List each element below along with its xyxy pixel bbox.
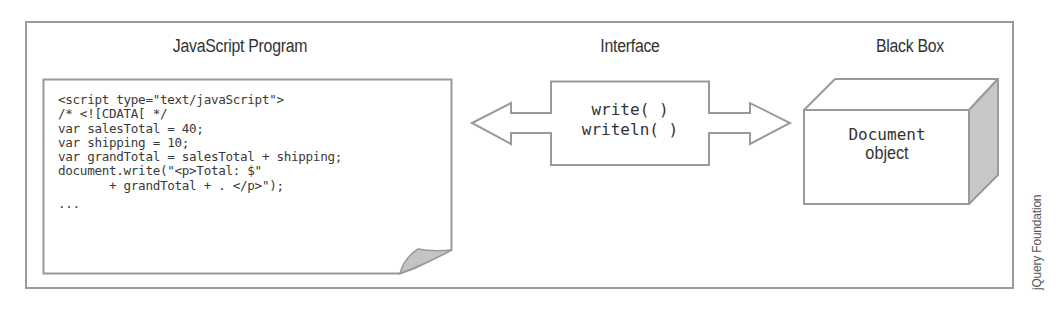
method-write: write( ) xyxy=(551,100,709,120)
interface-methods: write( ) writeln( ) xyxy=(551,100,709,140)
code-line: ... xyxy=(58,197,342,211)
object-name: Document xyxy=(804,126,970,144)
code-line: /* <![CDATA[ */ xyxy=(58,107,342,121)
code-line: var salesTotal = 40; xyxy=(58,122,342,136)
document-object-label: Document object xyxy=(804,126,970,162)
code-listing: <script type="text/javaScript">/* <![CDA… xyxy=(58,93,342,211)
code-line: + grandTotal + . </p>"); xyxy=(58,179,342,193)
image-credit: jQuery Foundation xyxy=(1030,195,1044,290)
object-label: object xyxy=(812,144,961,162)
code-line: var shipping = 10; xyxy=(58,136,342,150)
code-line: document.write("<p>Total: $" xyxy=(58,164,342,178)
code-line: <script type="text/javaScript"> xyxy=(58,93,342,107)
method-writeln: writeln( ) xyxy=(551,120,709,140)
code-line: var grandTotal = salesTotal + shipping; xyxy=(58,150,342,164)
